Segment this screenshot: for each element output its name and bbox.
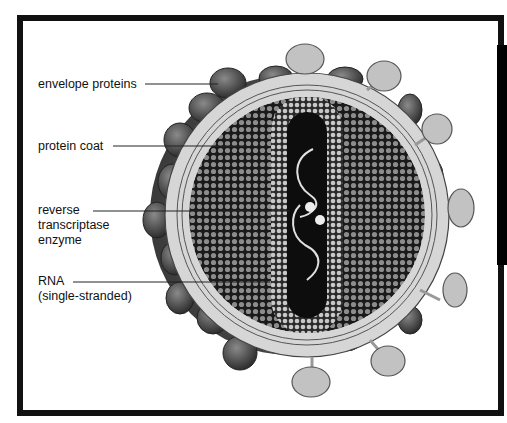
label-text: RNA (38, 274, 132, 289)
label-text: reverse (38, 203, 110, 218)
label-reverse-transcriptase: reverse transcriptase enzyme (38, 203, 110, 248)
label-text: envelope proteins (38, 77, 137, 91)
label-text: transcriptase (38, 218, 110, 233)
label-envelope-proteins: envelope proteins (38, 77, 137, 92)
label-protein-coat: protein coat (38, 139, 103, 154)
label-text: protein coat (38, 139, 103, 153)
label-text: enzyme (38, 233, 110, 248)
label-rna: RNA (single-stranded) (38, 274, 132, 304)
label-text: (single-stranded) (38, 289, 132, 304)
